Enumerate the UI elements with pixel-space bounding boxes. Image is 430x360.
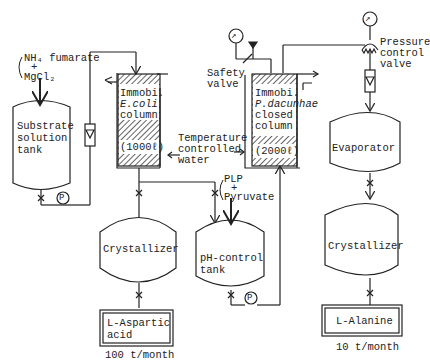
crystallizer-left-label: Crystallizer bbox=[103, 243, 179, 255]
pdacunhae-column-volume: (2000ℓ) bbox=[255, 145, 299, 157]
feed-left-line2: MgCl₂ bbox=[24, 71, 56, 83]
temperature-line3: water bbox=[178, 154, 210, 166]
aspartic-line1: L-Aspartic bbox=[107, 317, 170, 329]
process-flow-diagram: ↗ ↗ NH₄ fumarate + MgCl₂ PLP + Pyruvate … bbox=[0, 0, 430, 360]
substrate-tank-line1: Substrate bbox=[17, 120, 74, 132]
safety-gauge-icon: ↗ bbox=[231, 30, 236, 42]
evaporator-label: Evaporator bbox=[332, 142, 395, 154]
feed-mid-line2: Pyruvate bbox=[224, 191, 274, 203]
crystallizer-right-label: Crystallizer bbox=[328, 240, 404, 252]
ph-tank-line1: pH-control bbox=[200, 252, 263, 264]
alanine-label: L-Alanine bbox=[336, 315, 393, 327]
substrate-tank-line3: tank bbox=[17, 144, 42, 156]
pump-mid-icon: P bbox=[247, 292, 252, 304]
ph-tank-line2: tank bbox=[200, 264, 225, 276]
pdacunhae-column-line4: column bbox=[255, 120, 293, 132]
ecoli-column-line3: column bbox=[120, 109, 158, 121]
pump-left-icon: P bbox=[59, 192, 64, 204]
safety-valve-line2: valve bbox=[207, 78, 239, 90]
aspartic-line2: acid bbox=[107, 329, 132, 341]
pressure-valve-line3: valve bbox=[380, 58, 412, 70]
aspartic-rate: 100 t/month bbox=[105, 349, 174, 360]
pressure-gauge-icon: ↗ bbox=[365, 13, 370, 25]
alanine-rate: 10 t/month bbox=[336, 341, 399, 353]
substrate-tank-line2: solution bbox=[17, 132, 67, 144]
ecoli-column-volume: (1000ℓ) bbox=[120, 141, 164, 153]
